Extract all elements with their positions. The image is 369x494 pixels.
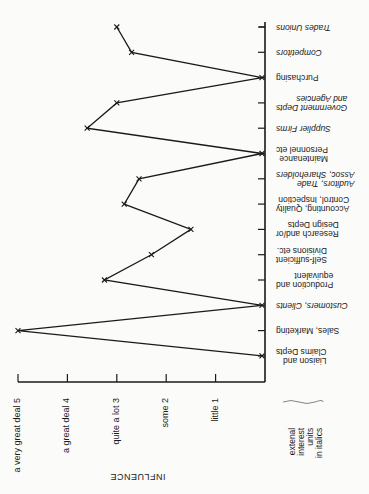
category-label: Trades Unions (276, 23, 331, 32)
category-label: Supplier Firms (276, 124, 331, 133)
category-label: Purchasing (276, 73, 319, 82)
category-label: Customers, Clients (276, 301, 348, 310)
influence-axis-title: INFLUENCE (110, 472, 166, 482)
category-label: Accounting, Quality Control, Inspection (276, 195, 349, 213)
scale-tick-label: a very great deal 5 (12, 398, 22, 473)
legend-note: extenal interest units in italics (288, 428, 324, 458)
category-label: Government Depts and Agencies (276, 94, 347, 112)
scale-tick-label: little 1 (210, 398, 220, 422)
influence-line (18, 27, 262, 356)
scale-tick-label: quite a lot 3 (111, 398, 121, 445)
category-label: Auditors, Trade Assoc, Shareholders (276, 170, 354, 188)
category-label: Sales, Marketing (276, 326, 339, 335)
category-label: Self-sufficient Divisions etc. (276, 246, 327, 264)
scale-tick-label: a great deal 4 (61, 398, 71, 453)
category-label: Liaison and Claims Depts (276, 347, 327, 365)
influence-series (16, 25, 265, 359)
category-label: Competitors (276, 48, 322, 57)
category-label: Maintenance Personnel etc (276, 145, 328, 163)
category-label: Production and equivalent (276, 271, 333, 289)
category-label: Research and/or Design Depts (276, 220, 339, 238)
scale-tick-label: some 2 (160, 398, 170, 428)
separator-squiggle (283, 401, 323, 404)
